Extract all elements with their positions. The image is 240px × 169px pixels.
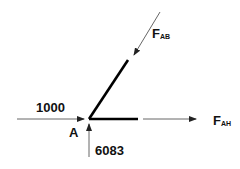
force-1000-label: 1000 (36, 101, 65, 114)
fab-subscript: AB (160, 33, 170, 40)
force-fah-label: FAH (213, 114, 231, 127)
force-fab-label: FAB (152, 27, 170, 40)
fah-symbol: F (213, 113, 221, 128)
joint-a-label: A (69, 126, 78, 139)
member-ab (89, 60, 128, 119)
fab-symbol: F (152, 26, 160, 41)
fah-subscript: AH (221, 120, 231, 127)
force-6083-label: 6083 (95, 144, 124, 157)
